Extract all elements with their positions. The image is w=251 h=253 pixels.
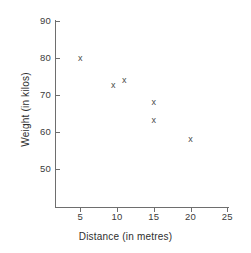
y-tick-label-60: 60 [29,126,51,137]
x-tick-label-10: 10 [107,211,127,222]
y-tick-50 [55,169,60,170]
scatter-plot-figure: 5060708090 510152025 xxxxxx Distance (in… [0,0,251,253]
x-tick-label-25: 25 [217,211,237,222]
data-point-marker: x [120,76,129,85]
data-point-marker: x [109,81,118,90]
y-tick-label-70: 70 [29,89,51,100]
plot-area: 5060708090 510152025 xxxxxx Distance (in… [0,0,251,253]
x-tick-label-15: 15 [144,211,164,222]
data-point-marker: x [186,135,195,144]
x-tick-label-20: 20 [181,211,201,222]
x-axis-label: Distance (in metres) [0,231,251,242]
data-point-marker: x [76,54,85,63]
y-tick-label-80: 80 [29,52,51,63]
data-point-marker: x [149,116,158,125]
y-tick-70 [55,95,60,96]
x-tick-label-5: 5 [70,211,90,222]
y-axis-label: Weight (in kilos) [20,40,31,180]
y-tick-60 [55,132,60,133]
y-axis-line [55,20,56,208]
y-tick-label-90: 90 [29,15,51,26]
y-tick-80 [55,58,60,59]
y-tick-90 [55,21,60,22]
data-point-marker: x [149,98,158,107]
y-tick-label-50: 50 [29,163,51,174]
